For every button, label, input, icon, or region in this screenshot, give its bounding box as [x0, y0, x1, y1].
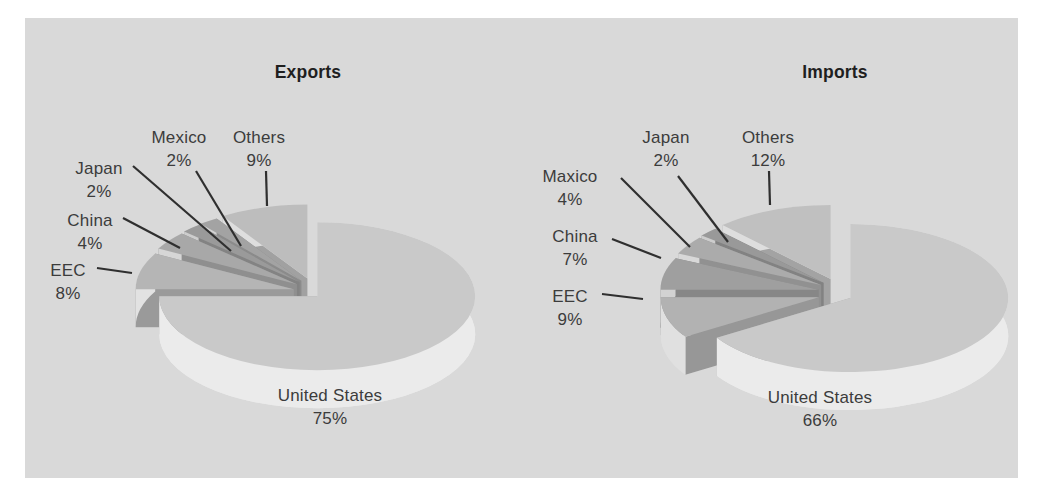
slice-label-percent: 12% — [742, 149, 794, 172]
leader-line-china — [123, 218, 180, 248]
slice-label-japan: Japan2% — [75, 157, 122, 203]
slice-label-japan: Japan2% — [642, 126, 689, 172]
slice-label-percent: 9% — [552, 308, 588, 331]
slice-label-mexico: Mexico2% — [151, 126, 206, 172]
chart-title-exports: Exports — [275, 62, 342, 83]
slice-label-united-states: United States66% — [768, 386, 873, 432]
slice-label-name: Others — [742, 126, 794, 149]
slice-label-name: United States — [278, 384, 383, 407]
leader-line-eec — [97, 268, 132, 273]
slice-label-percent: 8% — [50, 282, 86, 305]
slice-label-others: Others9% — [233, 126, 285, 172]
slice-label-percent: 7% — [552, 248, 597, 271]
slice-label-name: Japan — [75, 157, 122, 180]
slice-label-united-states: United States75% — [278, 384, 383, 430]
slice-label-percent: 75% — [278, 407, 383, 430]
slice-label-percent: 4% — [67, 232, 112, 255]
leader-line-maxico — [621, 178, 690, 247]
slice-label-percent: 9% — [233, 149, 285, 172]
leader-line-japan — [678, 176, 728, 242]
pie-charts-canvas — [0, 0, 1044, 499]
slice-label-name: United States — [768, 386, 873, 409]
slice-label-china: China7% — [552, 225, 597, 271]
slice-label-percent: 2% — [642, 149, 689, 172]
slice-label-percent: 2% — [151, 149, 206, 172]
slice-label-name: Mexico — [151, 126, 206, 149]
slice-label-name: EEC — [552, 285, 588, 308]
chart-title-imports: Imports — [802, 62, 868, 83]
leader-line-others — [769, 171, 770, 205]
slice-label-china: China4% — [67, 209, 112, 255]
leader-line-eec — [602, 294, 643, 299]
slice-label-name: Japan — [642, 126, 689, 149]
slice-label-name: EEC — [50, 259, 86, 282]
slice-label-name: Maxico — [542, 165, 597, 188]
slice-label-name: China — [552, 225, 597, 248]
slice-label-name: China — [67, 209, 112, 232]
pie-exports — [97, 166, 475, 408]
slice-label-eec: EEC8% — [50, 259, 86, 305]
slice-label-percent: 4% — [542, 188, 597, 211]
leader-line-others — [266, 171, 267, 206]
slice-label-eec: EEC9% — [552, 285, 588, 331]
pie-imports — [602, 171, 1008, 410]
slice-label-percent: 66% — [768, 409, 873, 432]
slice-label-percent: 2% — [75, 180, 122, 203]
slice-label-others: Others12% — [742, 126, 794, 172]
leader-line-china — [612, 239, 661, 258]
slice-label-maxico: Maxico4% — [542, 165, 597, 211]
slice-label-name: Others — [233, 126, 285, 149]
